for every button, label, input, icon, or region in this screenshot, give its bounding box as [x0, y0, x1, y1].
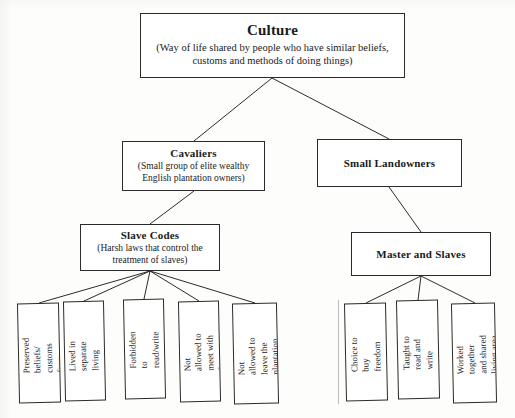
leaf-master-slaves-2: Taught to read and write [396, 300, 440, 400]
leaf-master-slaves-3: Worked together and shared living area [451, 303, 497, 404]
edge-cavaliers-slavecodes [150, 191, 194, 224]
leaf-master-slaves-3-label: Worked together and shared living area [455, 332, 494, 375]
leaf-slave-codes-1: Preserved beliefs/ customs from Africa [17, 303, 61, 404]
leaf-master-slaves-1-label: Choice to buy freedom [349, 332, 384, 373]
leaf-slave-codes-1-label: Preserved beliefs/ customs from Africa [21, 333, 58, 374]
node-culture-title: Culture [247, 22, 298, 39]
leaf-slave-codes-2-label: Lived in separate living quarters [67, 331, 103, 371]
leaf-master-slaves-1: Choice to buy freedom [344, 303, 388, 402]
edge-slavecodes-leaf-2 [84, 271, 150, 301]
leaf-slave-codes-3-label: Forbidden to read/write [127, 329, 162, 369]
edge-masterslaves-leaf-2 [418, 276, 421, 300]
node-master-and-slaves-title: Master and Slaves [376, 248, 465, 260]
node-cavaliers-description: (Small group of elite wealthy English pl… [128, 161, 259, 184]
edge-masterslaves-leaf-1 [366, 276, 421, 303]
leaf-master-slaves-2-label: Taught to read and write [401, 329, 436, 370]
edge-culture-landowners [272, 78, 389, 139]
leaf-slave-codes-2: Lived in separate living quarters [63, 301, 106, 402]
node-slave-codes: Slave Codes (Harsh laws that control the… [80, 224, 220, 271]
edge-slavecodes-leaf-1 [39, 271, 150, 303]
edge-slavecodes-leaf-4 [150, 271, 199, 301]
node-small-landowners: Small Landowners [317, 139, 462, 187]
scan-artifact-line [338, 300, 339, 404]
edge-culture-cavaliers [194, 78, 272, 141]
edge-slavecodes-leaf-3 [144, 271, 150, 299]
leaf-slave-codes-4: Not allowed to meet with free blacks [178, 301, 221, 403]
node-slave-codes-description: (Harsh laws that control the treatment o… [86, 243, 214, 266]
node-small-landowners-title: Small Landowners [344, 157, 436, 169]
leaf-slave-codes-5-label: Not allowed to leave the plantation with… [236, 332, 276, 376]
node-cavaliers: Cavaliers (Small group of elite wealthy … [122, 141, 265, 191]
leaf-slave-codes-4-label: Not allowed to meet with free blacks [182, 332, 218, 372]
node-master-and-slaves: Master and Slaves [351, 232, 491, 276]
culture-hierarchy-diagram: Culture (Way of life shared by people wh… [0, 0, 515, 418]
edge-slavecodes-leaf-5 [150, 271, 255, 303]
node-slave-codes-title: Slave Codes [121, 229, 180, 241]
leaf-slave-codes-5: Not allowed to leave the plantation with… [232, 303, 279, 405]
node-culture-description: (Way of life shared by people who have s… [148, 42, 397, 68]
node-culture: Culture (Way of life shared by people wh… [140, 13, 405, 78]
node-cavaliers-title: Cavaliers [170, 147, 216, 159]
edge-landowners-masterslaves [389, 187, 421, 232]
leaf-slave-codes-3: Forbidden to read/write [123, 299, 166, 400]
